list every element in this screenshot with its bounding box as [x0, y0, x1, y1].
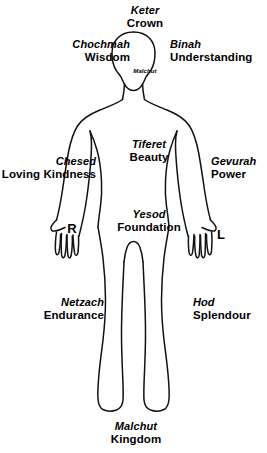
label-chesed-english: Loving Kindness [2, 168, 96, 182]
label-chochmah: Chochmah Wisdom [72, 38, 130, 65]
label-netzach-hebrew: Netzach [44, 296, 104, 309]
label-keter-hebrew: Keter [127, 4, 163, 17]
sephirot-body-diagram: Malchut R L Keter Crown Chochmah Wisdom … [0, 0, 267, 453]
label-yesod: Yesod Foundation [117, 208, 181, 235]
left-finger-2 [61, 234, 66, 258]
label-malchut: Malchut Kingdom [111, 420, 162, 447]
right-thumb-line [202, 220, 216, 231]
label-hod: Hod Splendour [193, 296, 251, 323]
label-tiferet-hebrew: Tiferet [130, 138, 169, 151]
label-malchut-english: Kingdom [111, 433, 162, 447]
right-finger-1 [207, 232, 213, 255]
label-gevurah: Gevurah Power [211, 155, 256, 182]
label-keter: Keter Crown [127, 4, 163, 31]
right-finger-2 [201, 234, 206, 258]
label-chochmah-english: Wisdom [72, 51, 130, 65]
right-finger-4 [188, 235, 194, 256]
left-finger-4 [73, 235, 79, 255]
label-gevurah-english: Power [211, 168, 256, 182]
label-yesod-english: Foundation [117, 221, 181, 235]
left-finger-3 [67, 235, 72, 258]
label-binah: Binah Understanding [170, 38, 252, 65]
label-chesed-hebrew: Chesed [2, 155, 96, 168]
label-hod-english: Splendour [193, 309, 251, 323]
neck-right-line [143, 84, 145, 100]
hand-letter-right: R [67, 221, 76, 236]
label-netzach: Netzach Endurance [44, 296, 104, 323]
neck-left-line [123, 84, 125, 100]
label-tiferet-english: Beauty [130, 151, 169, 165]
left-finger-1 [55, 232, 60, 255]
left-arm-inner-line [79, 131, 92, 236]
label-gevurah-hebrew: Gevurah [211, 155, 256, 168]
right-finger-3 [195, 235, 200, 258]
label-netzach-english: Endurance [44, 309, 104, 323]
label-binah-hebrew: Binah [170, 38, 252, 51]
label-yesod-hebrew: Yesod [117, 208, 181, 221]
label-tiferet: Tiferet Beauty [130, 138, 169, 165]
label-keter-english: Crown [127, 17, 163, 31]
label-malchut-neck: Malchut [133, 68, 156, 74]
label-binah-english: Understanding [170, 51, 252, 65]
label-malchut-hebrew: Malchut [111, 420, 162, 433]
crotch-line [124, 242, 143, 263]
right-leg-outline [143, 227, 169, 411]
left-thumb-line [51, 220, 65, 231]
label-hod-hebrew: Hod [193, 296, 251, 309]
label-chochmah-hebrew: Chochmah [72, 38, 130, 51]
hand-letter-left: L [217, 227, 225, 242]
label-chesed: Chesed Loving Kindness [2, 155, 96, 182]
